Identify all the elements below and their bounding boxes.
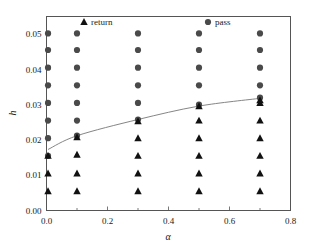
data-point-pass	[45, 117, 51, 123]
data-point-pass	[257, 65, 263, 71]
axis-ticks	[47, 34, 291, 210]
data-point-pass	[74, 47, 80, 53]
plot-frame	[47, 17, 291, 211]
data-point-return	[256, 187, 263, 194]
data-point-return	[134, 170, 141, 177]
data-point-return	[256, 117, 263, 124]
data-point-return	[73, 170, 80, 177]
data-point-pass	[74, 30, 80, 36]
data-point-return	[44, 187, 51, 194]
y-axis-label: h	[7, 111, 18, 116]
data-point-pass	[135, 65, 141, 71]
data-point-return	[73, 151, 80, 158]
scatter-plot: 0.00.20.40.60.80.000.010.020.030.040.05 …	[0, 0, 310, 248]
data-point-return	[195, 152, 202, 159]
data-point-pass	[135, 100, 141, 106]
y-tick-label: 0.02	[26, 135, 42, 145]
data-point-return	[256, 170, 263, 177]
data-point-pass	[74, 117, 80, 123]
x-axis-label: α	[165, 231, 171, 242]
data-point-pass	[135, 47, 141, 53]
data-point-pass	[74, 100, 80, 106]
boundary-curve	[48, 98, 260, 149]
data-point-return	[134, 152, 141, 159]
data-point-pass	[45, 82, 51, 88]
boundary-curve-path	[48, 98, 260, 149]
data-point-pass	[196, 30, 202, 36]
data-point-return	[256, 152, 263, 159]
x-tick-label: 0.4	[163, 216, 175, 226]
data-point-pass	[196, 65, 202, 71]
x-tick-label: 0.2	[102, 216, 113, 226]
axis-tick-labels: 0.00.20.40.60.80.000.010.020.030.040.05	[26, 29, 297, 225]
legend-label-pass: pass	[215, 17, 231, 27]
data-point-return	[195, 117, 202, 124]
x-tick-label: 0.8	[285, 216, 297, 226]
data-point-return	[195, 187, 202, 194]
chart-legend: returnpass	[80, 17, 231, 27]
legend-marker-pass	[205, 19, 211, 25]
data-point-return	[44, 170, 51, 177]
data-point-return	[134, 187, 141, 194]
data-point-return	[256, 134, 263, 141]
y-tick-label: 0.05	[26, 29, 42, 39]
data-point-return	[195, 170, 202, 177]
data-point-pass	[135, 82, 141, 88]
data-point-return	[195, 134, 202, 141]
data-point-pass	[45, 47, 51, 53]
y-tick-label: 0.04	[26, 65, 42, 75]
data-point-pass	[257, 30, 263, 36]
data-point-pass	[74, 65, 80, 71]
data-point-pass	[74, 82, 80, 88]
data-point-return	[73, 187, 80, 194]
data-point-pass	[45, 100, 51, 106]
y-tick-label: 0.01	[26, 170, 42, 180]
data-point-pass	[257, 82, 263, 88]
data-point-pass	[196, 82, 202, 88]
data-point-return	[134, 134, 141, 141]
chart-figure: 0.00.20.40.60.80.000.010.020.030.040.05 …	[0, 0, 310, 248]
x-tick-label: 0.6	[224, 216, 236, 226]
x-tick-label: 0.0	[41, 216, 53, 226]
data-point-pass	[45, 30, 51, 36]
y-tick-label: 0.03	[26, 100, 42, 110]
data-point-pass	[45, 65, 51, 71]
legend-label-return: return	[91, 17, 113, 27]
data-point-pass	[257, 47, 263, 53]
y-tick-label: 0.00	[26, 206, 42, 216]
data-point-pass	[196, 47, 202, 53]
data-point-pass	[135, 30, 141, 36]
legend-marker-return	[80, 18, 87, 25]
data-point-pass	[45, 135, 51, 141]
data-points	[44, 30, 263, 194]
